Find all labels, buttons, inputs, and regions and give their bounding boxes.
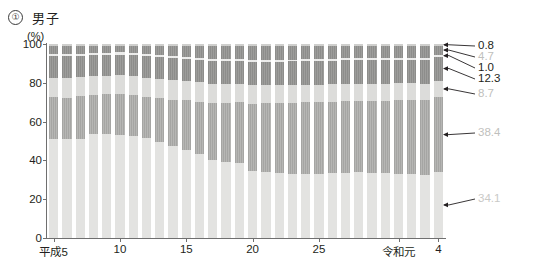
x-axis-tick-label: 令和元 [382, 243, 415, 259]
callout-leader [444, 69, 475, 79]
x-axis-tick-label: 平成5 [39, 243, 67, 259]
x-axis-tick-mark [54, 239, 55, 242]
value-callout-label: 12.3 [478, 72, 500, 84]
callout-arrowhead [443, 48, 448, 53]
callout-arrowhead [443, 132, 448, 137]
callout-leader-lines [0, 0, 537, 265]
x-axis-tick-label: 25 [313, 243, 326, 255]
callout-arrowhead [443, 53, 448, 58]
x-axis-tick-label: 20 [246, 243, 259, 255]
x-axis-tick-label: 15 [180, 243, 193, 255]
x-axis-tick-mark [319, 239, 320, 242]
callout-leader [444, 45, 475, 46]
value-callout-label: 38.4 [478, 126, 500, 138]
x-axis-tick-mark [120, 239, 121, 242]
callout-leader [444, 133, 475, 135]
x-axis-tick-label: 10 [114, 243, 127, 255]
callout-leader [444, 89, 475, 94]
callout-arrowhead [443, 203, 448, 208]
x-axis-tick-mark [186, 239, 187, 242]
callout-leader [444, 56, 475, 68]
x-axis-tick-label: 4 [435, 243, 441, 255]
callout-arrowhead [443, 42, 448, 47]
x-axis-tick-mark [399, 239, 400, 242]
callout-arrowhead [443, 66, 448, 71]
value-callout-label: 34.1 [478, 192, 500, 204]
callout-leader [444, 199, 475, 205]
x-axis-tick-mark [253, 239, 254, 242]
callout-arrowhead [443, 87, 448, 92]
x-axis-tick-mark [438, 239, 439, 242]
value-callout-label: 8.7 [478, 87, 494, 99]
